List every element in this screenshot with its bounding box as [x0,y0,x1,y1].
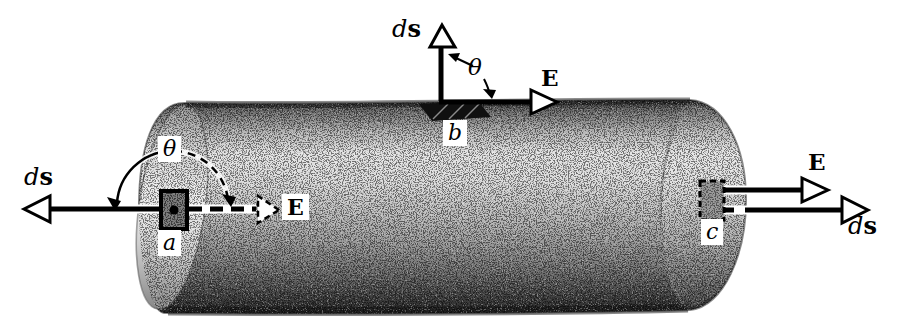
patch-c-label: c [701,219,723,245]
ds-label-c: ds [848,214,877,238]
theta-label-b: θ [468,56,482,79]
theta-b-leader-upper-head [448,53,460,62]
ds-label-a-s: s [39,162,53,191]
ds-label-a: ds [24,165,53,189]
figure-canvas: ds θ E b ds θ a E E ds c [0,0,911,333]
e-arrow-c-head [802,178,828,202]
ds-label-a-d: d [24,163,39,191]
ds-label-b-s: s [407,14,421,43]
ds-arrow-a-head [24,196,50,222]
ds-label-c-d: d [848,212,863,240]
theta-b-leader-lower-head [483,89,496,99]
e-label-a: E [282,194,309,220]
ds-label-b-d: d [392,15,407,43]
patch-a-label: a [158,230,181,256]
theta-label-a: θ [158,136,181,162]
ds-arrow-b-head [430,25,455,47]
patch-a-dot [170,206,179,215]
patch-b-label: b [443,120,467,146]
ds-label-b: ds [392,17,421,41]
e-label-c: E [808,150,826,173]
ds-label-c-s: s [863,211,877,240]
patch-c-texture [701,182,723,219]
e-label-b: E [541,66,559,89]
diagram-drawing [0,0,911,333]
